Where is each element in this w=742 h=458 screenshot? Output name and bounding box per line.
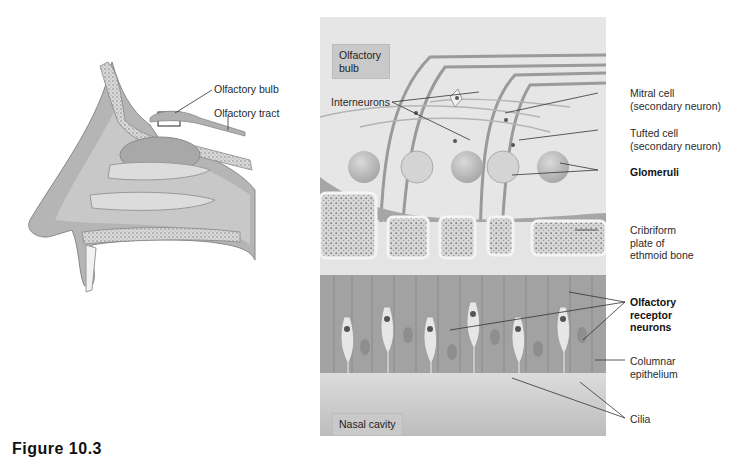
label-columnar-epithelium: Columnar epithelium xyxy=(630,355,678,380)
label-olfactory-bulb: Olfactory bulb xyxy=(214,83,279,96)
olfactory-bulb-leader-line xyxy=(175,90,212,113)
label-olfactory-receptor-neurons: Olfactory receptor neurons xyxy=(630,296,676,334)
olfactory-epithelium-drawing xyxy=(320,17,606,436)
region-tag-nasal-cavity: Nasal cavity xyxy=(332,413,403,436)
label-mitral-cell: Mitral cell (secondary neuron) xyxy=(630,87,721,112)
label-glomeruli: Glomeruli xyxy=(630,166,679,179)
region-tag-olfactory-bulb: Olfactory bulb xyxy=(332,44,390,79)
label-interneurons: Interneurons xyxy=(331,96,390,109)
label-cribriform-plate: Cribriform plate of ethmoid bone xyxy=(630,224,694,262)
figure-caption: Figure 10.3 xyxy=(12,440,102,458)
label-olfactory-tract: Olfactory tract xyxy=(214,107,279,120)
label-tufted-cell: Tufted cell (secondary neuron) xyxy=(630,127,721,152)
nasal-cavity-illustration xyxy=(0,0,320,300)
nasal-cavity-drawing xyxy=(0,0,320,300)
olfactory-epithelium-panel: Olfactory bulb Nasal cavity xyxy=(320,17,606,436)
label-cilia: Cilia xyxy=(630,413,650,426)
